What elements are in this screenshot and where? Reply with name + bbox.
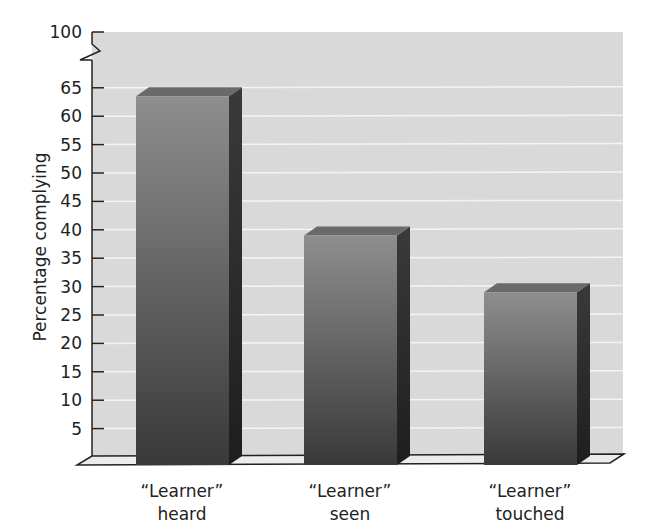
x-category-label: heard	[157, 504, 206, 524]
bar	[484, 283, 590, 465]
y-tick-label: 50	[60, 163, 82, 183]
y-tick-label: 20	[60, 333, 82, 353]
y-tick-label: 10	[60, 390, 82, 410]
x-category-label: “Learner”	[141, 481, 224, 501]
x-category-label: “Learner”	[309, 481, 392, 501]
y-tick-label: 65	[60, 78, 82, 98]
y-tick-label: 25	[60, 305, 82, 325]
y-tick-label: 5	[71, 419, 82, 439]
x-axis-labels: “Learner”heard“Learner”seen“Learner”touc…	[141, 481, 572, 524]
y-tick-label: 60	[60, 106, 82, 126]
bar-chart: 5101520253035404550556065100 Percentage …	[0, 0, 645, 532]
y-tick-label: 100	[50, 22, 82, 42]
x-category-label: “Learner”	[489, 481, 572, 501]
y-tick-label: 55	[60, 135, 82, 155]
y-tick-label: 30	[60, 277, 82, 297]
y-tick-label: 40	[60, 220, 82, 240]
y-tick-label: 35	[60, 248, 82, 268]
x-category-label: touched	[495, 504, 564, 524]
y-tick-label: 15	[60, 362, 82, 382]
x-category-label: seen	[330, 504, 371, 524]
bar	[304, 226, 410, 465]
y-axis-title: Percentage complying	[30, 152, 50, 341]
y-tick-label: 45	[60, 191, 82, 211]
bar	[136, 87, 242, 465]
